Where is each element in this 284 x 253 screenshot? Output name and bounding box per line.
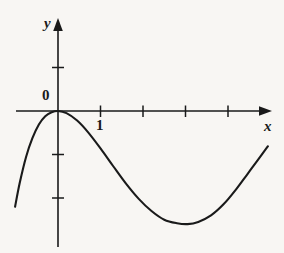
- x-tick-label-1: 1: [96, 118, 104, 133]
- origin-label: 0: [42, 88, 50, 103]
- y-axis-arrowhead: [53, 18, 63, 31]
- x-axis-label: x: [264, 119, 272, 134]
- function-graph-figure: y x 0 1: [0, 0, 284, 253]
- y-axis-label: y: [44, 16, 51, 31]
- x-axis-arrowhead: [259, 106, 272, 116]
- function-curve: [15, 111, 268, 224]
- graph-canvas: [0, 0, 284, 253]
